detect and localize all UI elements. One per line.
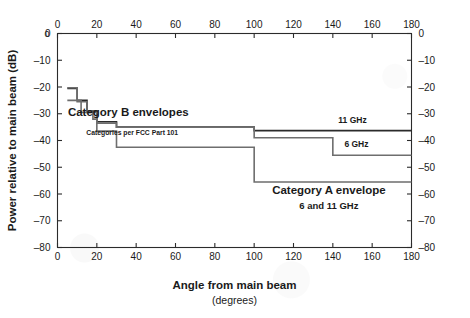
x-tick-label-bottom: 100 [246,251,263,262]
y-tick-label-right: 0 [419,28,425,39]
cat-a-sub: 6 and 11 GHz [299,200,358,211]
x-tick-label-top: 60 [170,19,182,30]
chart-canvas: 0204060801001201401601800204060801001201… [0,0,470,318]
ghz-11-label: 11 GHz [338,115,366,125]
y-tick-label-right: –40 [419,135,436,146]
x-tick-label-top: 120 [285,19,302,30]
y-tick-label-right: –80 [419,242,436,253]
y-tick-label-left: –50 [34,162,51,173]
y-tick-label-left: –10 [34,55,51,66]
x-tick-label-bottom: 140 [324,251,341,262]
x-tick-label-top: 0 [55,19,61,30]
y-tick-label-left: –80 [34,242,51,253]
x-tick-label-top: 160 [364,19,381,30]
x-tick-label-bottom: 80 [209,251,221,262]
x-tick-label-bottom: 160 [364,251,381,262]
x-axis-title: Angle from main beam [173,279,297,291]
y-tick-label-right: –20 [419,82,436,93]
x-axis-subtitle: (degrees) [212,294,257,306]
x-tick-label-bottom: 0 [55,251,61,262]
y-tick-label-right: –10 [419,55,436,66]
y-tick-label-left: –60 [34,189,51,200]
x-tick-label-bottom: 40 [131,251,143,262]
y-tick-label-right: –50 [419,162,436,173]
y-tick-label-right: –30 [419,108,436,119]
x-tick-label-top: 140 [324,19,341,30]
antenna-pattern-chart: 0204060801001201401601800204060801001201… [0,0,470,318]
x-tick-label-bottom: 60 [170,251,182,262]
ghz-6-label: 6 GHz [344,139,368,149]
corner-label-origin-left: 0 [44,29,49,39]
x-tick-label-top: 100 [246,19,263,30]
cat-b-label: Category B envelopes [68,106,189,118]
x-axis-top: 020406080100120140160180 [55,19,421,39]
y-tick-label-left: –70 [34,215,51,226]
x-tick-label-top: 40 [131,19,143,30]
x-tick-label-top: 80 [209,19,221,30]
fcc-note: Categories per FCC Part 101 [86,129,178,137]
cat-a-label: Category A envelope [272,184,386,196]
x-axis-bottom: 020406080100120140160180 [55,243,421,262]
corner-labels: 0 [44,29,49,39]
y-tick-label-left: –20 [34,82,51,93]
x-tick-label-bottom: 20 [91,251,103,262]
y-axis-title: Power relative to main beam (dB) [6,50,18,232]
y-tick-label-right: –70 [419,215,436,226]
x-tick-label-bottom: 120 [285,251,302,262]
y-tick-label-left: –30 [34,108,51,119]
y-tick-label-left: –40 [34,135,51,146]
x-tick-label-top: 20 [91,19,103,30]
y-tick-label-right: –60 [419,189,436,200]
